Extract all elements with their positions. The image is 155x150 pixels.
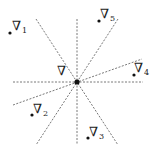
nabla-label-5: ∇5 <box>100 7 115 23</box>
nabla-label-1: ∇1 <box>12 19 27 35</box>
center-point <box>74 79 79 84</box>
center-nabla-label: ∇ <box>57 64 66 77</box>
nabla-label-3: ∇3 <box>89 125 104 141</box>
nabla-label-4: ∇4 <box>134 61 149 77</box>
nabla-label-2: ∇2 <box>33 102 48 118</box>
diagram-canvas: ∇ ∇1∇2∇3∇4∇5 <box>0 0 155 150</box>
